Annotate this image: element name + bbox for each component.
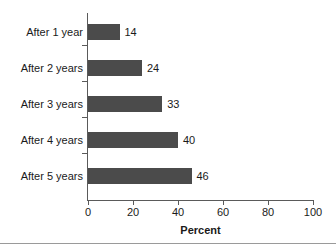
x-axis-tick-label: 0 bbox=[68, 206, 108, 219]
x-axis-line bbox=[87, 200, 314, 201]
x-axis-tick-label: 20 bbox=[113, 206, 153, 219]
category-label: After 5 years bbox=[1, 168, 83, 184]
category-label: After 3 years bbox=[1, 96, 83, 112]
bar[interactable] bbox=[88, 24, 120, 40]
bar-value-label: 46 bbox=[197, 168, 209, 184]
bar-value-label: 24 bbox=[147, 60, 159, 76]
bar-value-label: 14 bbox=[125, 24, 137, 40]
x-axis-tick bbox=[178, 200, 179, 205]
category-label: After 4 years bbox=[1, 132, 83, 148]
bar[interactable] bbox=[88, 132, 178, 148]
bottom-divider bbox=[0, 243, 336, 244]
bar-value-label: 33 bbox=[167, 96, 179, 112]
category-label: After 1 year bbox=[1, 24, 83, 40]
x-axis-tick bbox=[223, 200, 224, 205]
x-axis-tick-label: 100 bbox=[293, 206, 333, 219]
x-axis-tick bbox=[268, 200, 269, 205]
bar-value-label: 40 bbox=[183, 132, 195, 148]
bar-chart: After 1 year After 2 years After 3 years… bbox=[0, 0, 336, 247]
category-label: After 2 years bbox=[1, 60, 83, 76]
x-axis-tick-label: 60 bbox=[203, 206, 243, 219]
x-axis-tick bbox=[88, 200, 89, 205]
x-axis-title: Percent bbox=[88, 224, 313, 236]
bar[interactable] bbox=[88, 60, 142, 76]
x-axis-tick-label: 80 bbox=[248, 206, 288, 219]
x-axis-tick bbox=[313, 200, 314, 205]
plot-area: 14 24 33 40 46 bbox=[88, 14, 313, 200]
x-axis-tick bbox=[133, 200, 134, 205]
bar[interactable] bbox=[88, 168, 192, 184]
bar[interactable] bbox=[88, 96, 162, 112]
x-axis-tick-label: 40 bbox=[158, 206, 198, 219]
